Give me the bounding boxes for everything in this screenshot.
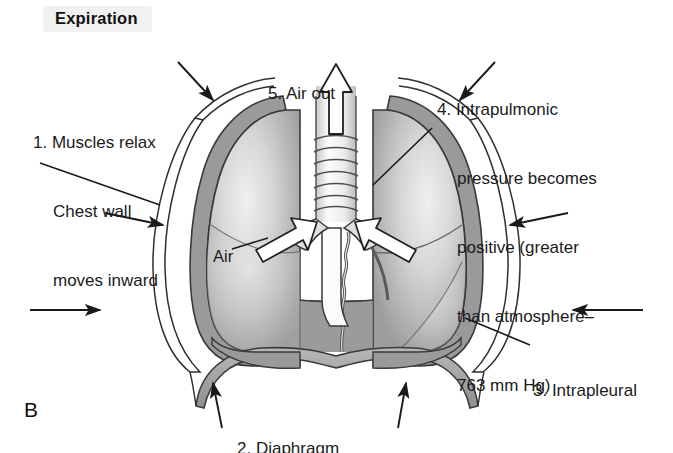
label-diaphragm-ascends: 2. Diaphragm ascends (237, 391, 339, 453)
label-air: Air (213, 245, 233, 268)
label-intrapulmonic-line4: than atmosphere– (437, 305, 597, 328)
label-muscles-relax: 1. Muscles relax Chest wall moves inward (33, 85, 158, 338)
panel-letter: B (24, 398, 38, 421)
label-intrapulmonic-line2: pressure becomes (437, 167, 597, 190)
label-intrapleural-line1: 3. Intrapleural (533, 379, 637, 402)
label-muscles-line1: 1. Muscles relax (33, 131, 158, 154)
label-air-out: 5. Air out (268, 36, 335, 151)
label-intrapleural-pressure: 3. Intrapleural pressure remains negativ… (533, 333, 637, 453)
expiration-diagram: Expiration 1. Muscles relax Chest wall m… (0, 0, 673, 453)
label-muscles-line3: moves inward (33, 269, 158, 292)
label-diaphragm-line1: 2. Diaphragm (237, 437, 339, 453)
label-air-out-line1: 5. Air out (268, 82, 335, 105)
label-muscles-line2: Chest wall (33, 200, 158, 223)
label-intrapulmonic-line3: positive (greater (437, 236, 597, 259)
label-intrapulmonic-line1: 4. Intrapulmonic (437, 98, 597, 121)
page-title: Expiration (43, 6, 152, 32)
label-intrapleural-line2: pressure (533, 448, 637, 453)
